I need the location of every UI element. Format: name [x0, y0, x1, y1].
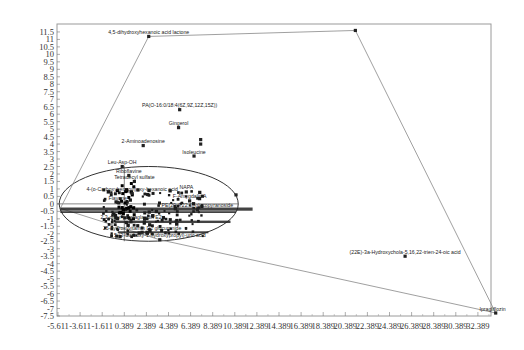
- cluster-point: [125, 207, 128, 210]
- data-point: [178, 108, 181, 111]
- x-tick-label: 18.389: [312, 321, 335, 331]
- scatter-chart: 4,5-dihydroxyhexanoic acid lactonePA(O-1…: [0, 0, 524, 350]
- point-label: NAPA: [179, 184, 193, 190]
- data-point: [403, 255, 406, 258]
- point-label: (22E)-3a-Hydroxychola-5,16,22-trien-24-o…: [350, 249, 461, 255]
- cluster-point: [142, 195, 144, 197]
- cluster-point: [157, 204, 160, 207]
- point-label: F-Amygdalin A: [173, 193, 207, 199]
- data-point: [116, 201, 119, 204]
- x-tick-label: 16.389: [289, 321, 312, 331]
- cluster-point: [176, 214, 179, 217]
- x-tick-label: 2.389: [137, 321, 156, 331]
- point-label: 4-(o-Carboxybenzoyl)oxy-hexanoic acid: [86, 186, 178, 192]
- cluster-point: [129, 210, 132, 213]
- cluster-point: [122, 208, 125, 211]
- data-point: [196, 208, 199, 211]
- point-label: 25-hydroxyvitamin D2 glucuronide: [103, 225, 182, 231]
- x-tick-label: -5.611: [47, 321, 69, 331]
- x-tick-label: 14.389: [267, 321, 290, 331]
- data-point: [131, 192, 134, 195]
- x-tick-label: 10.389: [223, 321, 246, 331]
- cluster-point: [117, 206, 120, 209]
- x-tick-label: 32.389: [466, 321, 489, 331]
- cluster-point: [200, 214, 202, 216]
- axes: 11.51110.5109.598.587.576.565.554.543.53…: [39, 27, 489, 331]
- point-label: 2,3-dinor-prostaglandin E2: [100, 214, 161, 220]
- overlapping-label-bar: [60, 211, 236, 213]
- cluster-point: [123, 202, 126, 205]
- cluster-point: [132, 206, 135, 209]
- point-label: 5-(3-Carboxy-1-hydroxypropyl)-uric acid: [114, 232, 206, 238]
- x-tick-label: 22.389: [356, 321, 379, 331]
- cluster-point: [111, 221, 114, 224]
- cluster-point: [143, 193, 146, 196]
- cluster-point: [130, 182, 133, 185]
- x-tick-label: 30.389: [444, 321, 467, 331]
- x-tick-label: -3.611: [69, 321, 91, 331]
- cluster-point: [190, 190, 193, 193]
- data-point: [494, 311, 497, 314]
- point-label: Ipragliflozin: [479, 306, 505, 312]
- x-tick-label: -1.611: [91, 321, 113, 331]
- cluster-point: [165, 218, 167, 220]
- cluster-point: [148, 194, 150, 196]
- cluster-point: [168, 194, 170, 196]
- x-tick-label: 12.389: [245, 321, 268, 331]
- data-point: [133, 180, 136, 183]
- cluster-point: [188, 215, 190, 217]
- y-tick-label: -7.5: [41, 311, 54, 321]
- cluster-point: [110, 234, 113, 237]
- x-tick-label: 20.389: [334, 321, 357, 331]
- x-tick-label: 8.389: [203, 321, 222, 331]
- point-label: Leu-Asp-OH: [108, 159, 137, 165]
- cluster-point: [143, 203, 146, 206]
- cluster-point: [152, 192, 155, 195]
- x-tick-label: 26.389: [400, 321, 423, 331]
- x-tick-label: 4.389: [159, 321, 178, 331]
- data-points: 4,5-dihydroxyhexanoic acid lactonePA(O-1…: [86, 29, 505, 315]
- point-label: Flavone: [109, 195, 128, 201]
- x-tick-label: 28.389: [422, 321, 445, 331]
- cluster-point: [185, 227, 188, 230]
- cluster-point: [129, 205, 132, 208]
- data-point: [142, 144, 145, 147]
- point-label: 4,5-dihydroxyhexanoic acid lactone: [108, 29, 189, 35]
- data-point: [192, 154, 195, 157]
- data-point: [158, 238, 161, 241]
- x-tick-label: 24.389: [378, 321, 401, 331]
- x-tick-label: 6.389: [181, 321, 200, 331]
- cluster-point: [192, 223, 194, 225]
- data-point: [199, 142, 202, 145]
- cluster-point: [127, 196, 130, 199]
- data-point: [147, 35, 150, 38]
- point-label: 2-Aminoadenosine: [122, 138, 165, 144]
- data-point: [199, 138, 202, 141]
- data-point: [129, 220, 132, 223]
- point-label: Tetradecyl sulfate: [114, 174, 154, 180]
- cluster-point: [111, 232, 113, 234]
- point-label: Gingerol: [169, 120, 189, 126]
- cluster-point: [190, 213, 192, 215]
- point-label: PA(O-16:0/18:4(6Z,9Z,12Z,15Z)): [142, 102, 217, 108]
- cluster-point: [159, 192, 161, 194]
- point-label: Isoleucine: [182, 149, 205, 155]
- cluster-point: [104, 198, 107, 201]
- point-label: PE(20:4/22:6)-glucopyranoside: [162, 202, 234, 208]
- data-point: [234, 193, 237, 196]
- data-point: [354, 29, 357, 32]
- cluster-point: [158, 201, 161, 204]
- x-tick-label: 0.389: [115, 321, 134, 331]
- data-point: [177, 126, 180, 129]
